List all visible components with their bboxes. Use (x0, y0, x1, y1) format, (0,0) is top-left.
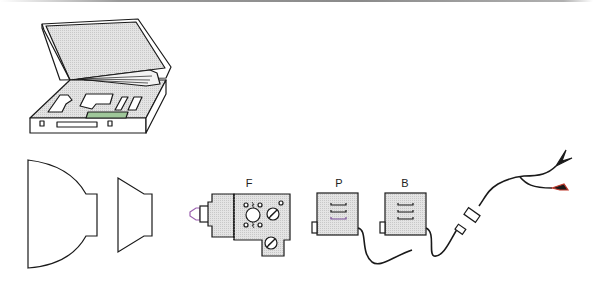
flash-head-f (190, 194, 290, 256)
large-reflector (28, 160, 97, 268)
alligator-clip-icon (556, 150, 572, 166)
small-reflector (118, 178, 152, 252)
label-b: B (401, 177, 408, 189)
label-f: F (246, 177, 253, 189)
label-p: P (335, 177, 342, 189)
power-pack-b (380, 193, 458, 256)
carrying-case (30, 19, 171, 133)
connector-cable (455, 150, 572, 234)
equipment-diagram: F P B (0, 0, 593, 281)
alligator-clip-icon (552, 184, 568, 190)
